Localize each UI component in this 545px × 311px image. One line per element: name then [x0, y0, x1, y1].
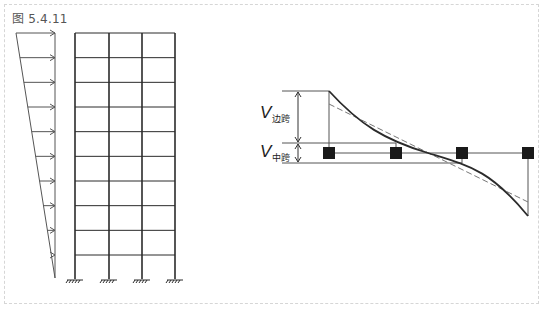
- label-v-symbol: V: [260, 103, 271, 122]
- shear-diagram: [282, 91, 534, 216]
- label-v-subscript: 边跨: [272, 114, 290, 124]
- label-v-symbol: V: [260, 142, 271, 161]
- frame-structure: [66, 33, 183, 283]
- lateral-load-diagram: [16, 30, 55, 278]
- label-v-edge-span: V边跨: [260, 103, 290, 123]
- label-v-subscript: 中跨: [272, 153, 290, 163]
- label-v-middle-span: V中跨: [260, 142, 290, 162]
